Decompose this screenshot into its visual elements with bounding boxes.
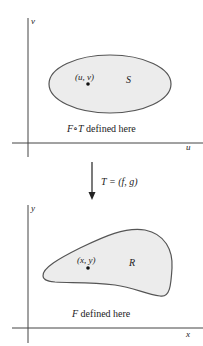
- caption-function: F∘T: [66, 123, 85, 134]
- arrow-down-icon: [89, 192, 96, 200]
- region-r-label: R: [128, 257, 135, 268]
- caption-rest: defined here: [78, 308, 131, 319]
- bottom-caption: F defined here: [71, 308, 131, 319]
- top-caption: F∘T defined here: [66, 123, 136, 134]
- y-axis-label: y: [30, 203, 35, 213]
- point-uv-label: (u, v): [75, 72, 94, 82]
- change-of-variables-diagram: v u (u, v) S F∘T defined here T = (f, g)…: [0, 0, 203, 346]
- x-axis-label: x: [185, 329, 190, 339]
- caption-rest: defined here: [84, 123, 137, 134]
- point-uv-dot: [86, 82, 90, 86]
- uv-plane: v u (u, v) S F∘T defined here: [12, 16, 203, 157]
- region-s: [49, 55, 171, 113]
- mapping-definition: = (f, g): [106, 176, 138, 188]
- mapping-label: T = (f, g): [101, 176, 138, 188]
- v-axis-label: v: [31, 16, 35, 26]
- point-xy-dot: [86, 266, 90, 270]
- region-s-label: S: [126, 74, 131, 85]
- mapping-arrow: T = (f, g): [89, 162, 139, 200]
- u-axis-label: u: [186, 142, 191, 152]
- xy-plane: y x (x, y) R F defined here: [12, 203, 203, 343]
- region-r: [43, 229, 172, 296]
- point-xy-label: (x, y): [77, 255, 95, 265]
